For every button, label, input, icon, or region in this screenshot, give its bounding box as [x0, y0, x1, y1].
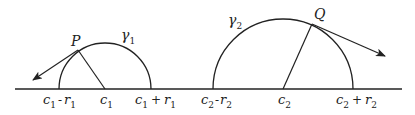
tangent-arrow-q	[312, 24, 385, 56]
curve-label-gamma-2: γ2	[228, 12, 242, 31]
radius-line-p	[78, 50, 105, 89]
tick-label-c2-minus-r2: c2-r2	[201, 92, 232, 110]
tick-label-c2: c2	[278, 92, 291, 110]
semicircle-gamma-1	[59, 43, 151, 89]
radius-line-q	[283, 24, 312, 89]
point-label-q: Q	[314, 6, 326, 22]
point-label-p: P	[70, 33, 81, 49]
tick-label-c1: c1	[100, 92, 113, 110]
curve-label-gamma-1: γ1	[121, 27, 135, 46]
tick-label-c2-plus-r2: c2+r2	[336, 92, 377, 110]
diagram-canvas: P γ1 Q γ2 c1-r1 c1 c1+r1 c2-r2 c2 c2+r2	[0, 0, 415, 115]
tangent-arrow-p	[33, 50, 78, 80]
tick-label-c1-plus-r1: c1+r1	[135, 92, 176, 110]
tick-label-c1-minus-r1: c1-r1	[43, 92, 76, 110]
semicircle-gamma-2	[213, 19, 353, 89]
